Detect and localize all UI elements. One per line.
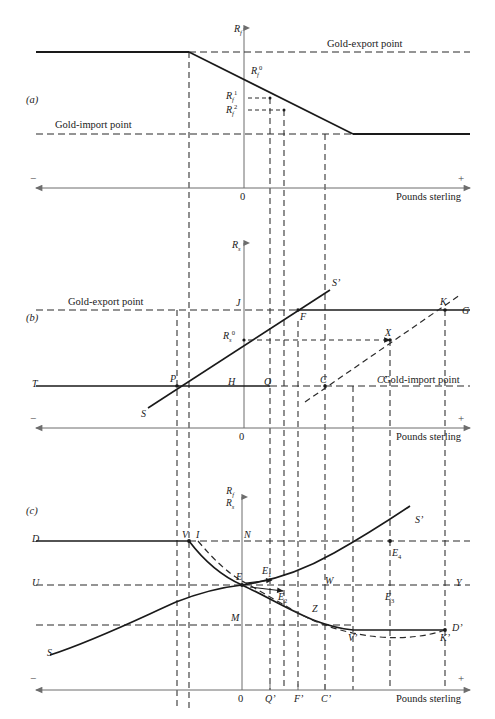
panel-a-gold-export-label: Gold-export point [327,39,403,50]
panel-c-graph [36,497,470,690]
panel-b-y-axis-label: Rs [232,240,241,253]
panel-b-origin-label: 0 [239,432,244,443]
panel-b-point-rs0 [242,338,245,341]
panel-c-label-E4: E4 [392,548,401,561]
panel-b-point-label-J: J [236,298,240,308]
panel-a-plus-sign: + [458,172,464,184]
panel-c-point-label-U: U [32,578,39,588]
panel-a-minus-sign: − [30,172,36,184]
panel-c-point-label-Y: Y [456,578,462,588]
panel-c-xtick-Qprime: Q’ [265,694,276,704]
panel-b-point-label-S: S [141,409,146,419]
panel-b-point-label-Cprime: C’ [377,375,387,385]
panel-c-plus-sign: + [458,672,464,684]
panel-c-point-label-S: S [47,648,52,658]
panel-a-point-rf1 [269,97,272,100]
panel-c-label-E2: E2 [278,592,287,605]
panel-b-point-label-Sprime: S’ [332,278,340,288]
panel-b-point-label-F: F [300,312,306,322]
panel-b-minus-sign: − [30,412,36,424]
panel-c-xtick-Fprime: F’ [294,694,303,704]
panel-c-point-label-Sprime: S’ [415,515,423,525]
panel-c-tag: (c) [26,505,38,516]
panel-c-point-label-Dprime: D’ [452,623,463,633]
panel-c-point-label-Z: Z [312,604,318,614]
panel-b-point-label-Q: Q [264,377,271,387]
panel-a-point-rf2 [283,109,286,112]
panel-a-label-rf1: Rf1 [226,90,237,104]
panel-a-origin-label: 0 [240,192,245,203]
panel-a-label-rf0: Rf0 [251,65,262,79]
panel-c-x-axis-label: Pounds sterling [396,694,461,705]
panel-c-xtick-Cprime: C’ [321,694,331,704]
panel-b-point-label-X: X [385,328,391,338]
panel-c-point-E4 [388,539,392,543]
panel-b-label-rs0: Rs0 [223,330,235,344]
panel-a-x-axis-label: Pounds sterling [396,192,461,203]
panel-b-tag: (b) [26,312,38,323]
panel-a-label-rf2: Rf2 [226,104,237,118]
panel-b-point-X [388,338,392,342]
panel-c-point-E [240,583,244,587]
panel-c-point-label-E: E [236,572,242,582]
panel-b-point-label-T: T [32,379,38,389]
panel-c-point-label-M: M [231,613,239,623]
panel-b-point-label-G: G [462,306,469,316]
panel-a-y-axis-label: Rf [234,24,242,37]
panel-b-point-label-C: C [320,375,327,385]
panel-c-minus-sign: − [30,672,36,684]
panel-b-x-axis-label: Pounds sterling [396,432,461,443]
panel-c-point-label-Kprime: K’ [440,633,450,643]
panel-b-gold-export-label: Gold-export point [68,297,144,308]
panel-c-xticks [270,684,325,690]
panel-c-point-label-N: N [244,530,251,540]
panel-a-gold-import-label: Gold-import point [55,120,132,131]
panel-b-point-label-P: P [170,374,176,384]
panel-c-point-label-W: W [325,576,333,586]
panel-a-tag: (a) [26,94,38,105]
panel-b-gold-import-label: Gold-import point [383,375,460,386]
panel-c-point-label-V: V [182,530,188,540]
panel-c-point-label-I: I [196,530,199,540]
panel-a-rf-schedule [189,52,353,134]
panel-b-point-K [443,308,447,312]
panel-b-point-label-K: K [440,297,447,307]
panel-b-graph [36,243,470,428]
panel-c-point-label-D: D [32,534,39,544]
panel-c-y-axis-label: Rf Rs [226,487,234,510]
panel-c-point-label-Vprime: V’ [348,633,357,643]
panel-b-plus-sign: + [458,412,464,424]
panel-b-point-P [175,384,179,388]
panel-c-xtick-0: 0 [238,694,243,705]
figure-canvas: (a) Rf Gold-export point Gold-import poi… [0,0,495,719]
panel-c-label-E1: E1 [262,566,271,579]
panel-c-label-E3: E3 [385,592,394,605]
figure-svg [0,0,495,719]
panel-a-graph [36,28,470,188]
panel-b-point-label-H: H [228,377,235,387]
panel-c-y-axis-numerator: Rf [226,486,234,496]
panel-c-y-axis-denominator: Rs [226,498,234,508]
